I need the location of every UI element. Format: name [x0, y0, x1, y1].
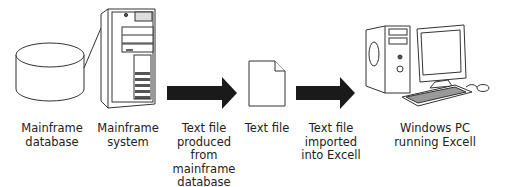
label-line: imported	[296, 136, 366, 150]
desktop-computer-icon	[366, 25, 489, 106]
label-line: mainframe	[168, 163, 240, 177]
label-text-file: Text file	[237, 122, 297, 136]
label-line: Mainframe	[92, 122, 164, 136]
label-line: Windows PC	[385, 122, 485, 136]
label-mainframe-database: Mainframe database	[12, 122, 92, 149]
label-line: Text file	[237, 122, 297, 136]
diagram-graphics	[0, 0, 507, 187]
label-line: running Excell	[385, 136, 485, 150]
connector-line	[84, 28, 101, 68]
label-windows-pc: Windows PC running Excell	[385, 122, 485, 149]
label-mainframe-system: Mainframe system	[92, 122, 164, 149]
data-flow-diagram: Mainframe database Mainframe system Text…	[0, 0, 507, 187]
label-text-file-imported: Text file imported into Excell	[296, 122, 366, 163]
label-line: system	[92, 136, 164, 150]
label-line: Text file	[168, 122, 240, 136]
label-line: database	[12, 136, 92, 150]
label-line: into Excell	[296, 149, 366, 163]
label-line: from	[168, 149, 240, 163]
label-line: produced	[168, 136, 240, 150]
right-arrow-icon	[167, 77, 237, 109]
document-icon	[249, 61, 285, 106]
label-line: Text file	[296, 122, 366, 136]
label-text-file-produced: Text file produced from mainframe databa…	[168, 122, 240, 187]
mainframe-tower-icon	[101, 9, 155, 108]
label-line: database	[168, 176, 240, 187]
label-line: Mainframe	[12, 122, 92, 136]
right-arrow-icon	[296, 77, 355, 109]
database-cylinder-icon	[16, 43, 84, 101]
